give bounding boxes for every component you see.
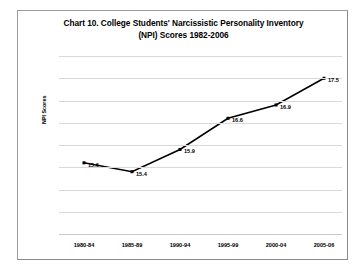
gridline (59, 145, 342, 146)
chart-title-line-1: Chart 10. College Students' Narcissistic… (18, 18, 349, 30)
data-point-label: 15.4 (136, 171, 147, 177)
x-axis-tick-label: 1995-99 (205, 242, 251, 248)
x-axis-tick-label: 2000-04 (253, 242, 299, 248)
data-point-label: 17.5 (328, 77, 339, 83)
chart-title-line-2: (NPI) Scores 1982-2006 (18, 30, 349, 42)
data-point-marker (83, 161, 86, 164)
data-point-label: 15.9 (184, 148, 195, 154)
gridline (59, 56, 342, 57)
gridline (59, 167, 342, 168)
x-axis-tick-label: 1990-94 (157, 242, 203, 248)
data-point-marker (131, 170, 134, 173)
gridline (59, 234, 342, 235)
x-axis-tick-label: 1985-89 (109, 242, 155, 248)
x-axis-tick-label: 1980-84 (61, 242, 107, 248)
data-point-marker (227, 117, 230, 120)
gridline (59, 123, 342, 124)
data-point-marker (275, 103, 278, 106)
gridline (59, 190, 342, 191)
data-point-marker (179, 148, 182, 151)
y-axis-title: NPI Scores (41, 96, 47, 124)
data-point-label: 16.6 (232, 117, 243, 123)
gridline (59, 212, 342, 213)
chart-screenshot: Chart 10. College Students' Narcissistic… (0, 0, 362, 273)
chart-frame: Chart 10. College Students' Narcissistic… (17, 10, 348, 260)
series-polyline (84, 78, 324, 171)
data-point-label: 16.9 (280, 104, 291, 110)
x-axis-tick-label: 2005-06 (301, 242, 347, 248)
gridline (59, 101, 342, 102)
data-point-label: 15.6 (88, 162, 99, 168)
chart-title: Chart 10. College Students' Narcissistic… (18, 18, 349, 41)
gridline (59, 78, 342, 79)
plot-area: 1817.51716.51615.51514.51415.615.415.916… (59, 56, 342, 234)
